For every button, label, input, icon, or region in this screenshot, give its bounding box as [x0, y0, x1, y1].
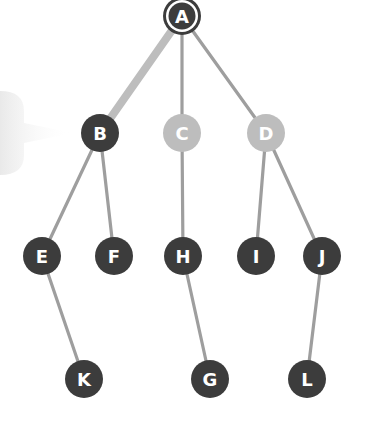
node-label: H: [175, 246, 190, 267]
edges: [42, 16, 322, 379]
node-label: D: [259, 123, 274, 144]
node-e[interactable]: E: [23, 237, 61, 275]
node-label: L: [301, 369, 312, 390]
node-l[interactable]: L: [288, 360, 326, 398]
node-label: B: [93, 123, 107, 144]
node-label: C: [175, 123, 188, 144]
edge-a-d: [182, 16, 266, 133]
pointer-shape: [0, 91, 73, 175]
pointer-bubble: [0, 91, 73, 175]
node-label: J: [317, 246, 326, 267]
node-c[interactable]: C: [163, 114, 201, 152]
node-k[interactable]: K: [65, 360, 103, 398]
node-f[interactable]: F: [95, 237, 133, 275]
edge-e-k: [42, 256, 84, 379]
node-j[interactable]: J: [303, 237, 341, 275]
tree-diagram: ABCDEFHIJKGL: [0, 0, 366, 430]
node-g[interactable]: G: [191, 360, 229, 398]
node-label: I: [253, 246, 260, 267]
node-d[interactable]: D: [247, 114, 285, 152]
edge-a-b: [100, 16, 182, 133]
edge-d-j: [266, 133, 322, 256]
node-h[interactable]: H: [164, 237, 202, 275]
node-b[interactable]: B: [81, 114, 119, 152]
node-label: E: [36, 246, 48, 267]
node-label: G: [203, 369, 218, 390]
edge-b-e: [42, 133, 100, 256]
node-i[interactable]: I: [237, 237, 275, 275]
node-label: A: [175, 6, 189, 27]
node-label: F: [108, 246, 120, 267]
node-label: K: [77, 369, 92, 390]
